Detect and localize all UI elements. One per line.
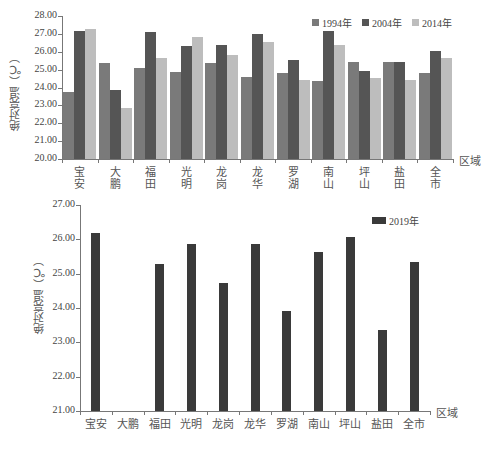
bar-2019年-南山 [314,252,323,411]
x-tick [335,411,336,415]
legend: 2019年 [372,213,419,228]
y-tick [76,377,80,378]
x-tick [398,411,399,415]
x-tick [144,411,145,415]
x-category-label: 光明 [175,419,207,431]
x-tick [80,411,81,415]
x-tick [303,411,304,415]
y-tick [76,239,80,240]
x-category-label: 大鹏 [112,419,144,431]
y-axis [80,205,81,411]
legend-item-2019年: 2019年 [372,213,419,228]
x-category-label: 龙华 [239,419,271,431]
bar-2019年-盐田 [378,330,387,411]
x-tick [430,411,431,415]
x-tick [112,411,113,415]
legend-swatch-icon [372,217,386,224]
x-category-label: 南山 [303,419,335,431]
y-axis-title: 绝对亮温（℃） [32,255,48,334]
y-tick-label: 22.00 [35,370,75,381]
y-tick-label: 27.00 [35,198,75,209]
x-tick [239,411,240,415]
bar-2019年-全市 [410,262,419,411]
bar-2019年-龙华 [251,244,260,411]
x-category-label: 坪山 [334,419,366,431]
bar-2019年-龙岗 [219,283,228,411]
x-axis [80,411,430,412]
x-tick [175,411,176,415]
x-category-label: 龙岗 [207,419,239,431]
y-tick-label: 23.00 [35,335,75,346]
x-category-label: 福田 [144,419,176,431]
x-tick [207,411,208,415]
legend-label: 2019年 [389,213,419,228]
y-tick-label: 26.00 [35,232,75,243]
y-tick [76,274,80,275]
chart-2019: 21.0022.0023.0024.0025.0026.0027.00宝安大鹏福… [0,0,486,449]
bar-2019年-罗湖 [282,311,291,411]
y-tick-label: 21.00 [35,404,75,415]
bar-2019年-光明 [187,244,196,411]
bar-2019年-坪山 [346,237,355,411]
x-tick [366,411,367,415]
y-tick [76,205,80,206]
x-category-label: 宝安 [80,419,112,431]
x-category-label: 全市 [398,419,430,431]
bar-2019年-宝安 [91,233,100,411]
y-tick [76,342,80,343]
bar-2019年-福田 [155,264,164,411]
x-tick [271,411,272,415]
x-category-label: 盐田 [366,419,398,431]
x-axis-title: 区域 [436,404,458,420]
y-tick [76,308,80,309]
x-category-label: 罗湖 [271,419,303,431]
